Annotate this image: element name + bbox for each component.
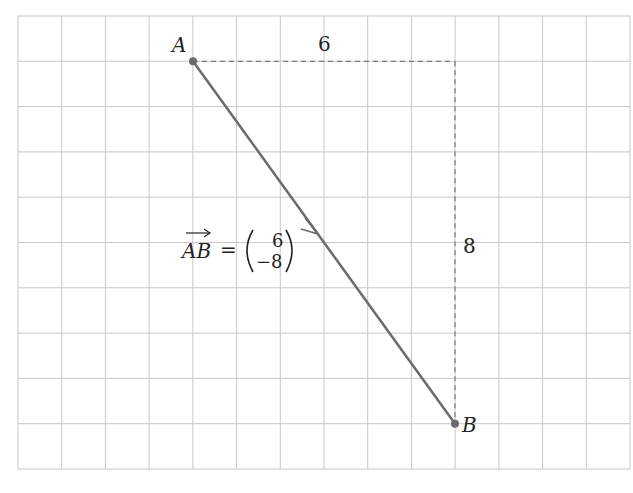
point-a-dot — [189, 57, 197, 65]
point-a-label: A — [170, 33, 186, 57]
point-b-dot — [451, 420, 459, 428]
point-b-label: B — [461, 413, 477, 437]
vertical-distance-label: 8 — [463, 234, 476, 258]
equals-sign: = — [220, 238, 237, 262]
horizontal-distance-label: 6 — [318, 32, 331, 56]
vector-name-label: AB — [180, 239, 211, 263]
left-parenthesis — [247, 230, 253, 272]
right-parenthesis — [286, 230, 292, 272]
vector-notation: AB = 6 −8 — [180, 229, 292, 272]
component-x-value: 6 — [272, 230, 283, 251]
component-y-value: −8 — [256, 251, 283, 272]
vector-diagram: A B 6 8 AB = 6 −8 — [0, 0, 633, 493]
